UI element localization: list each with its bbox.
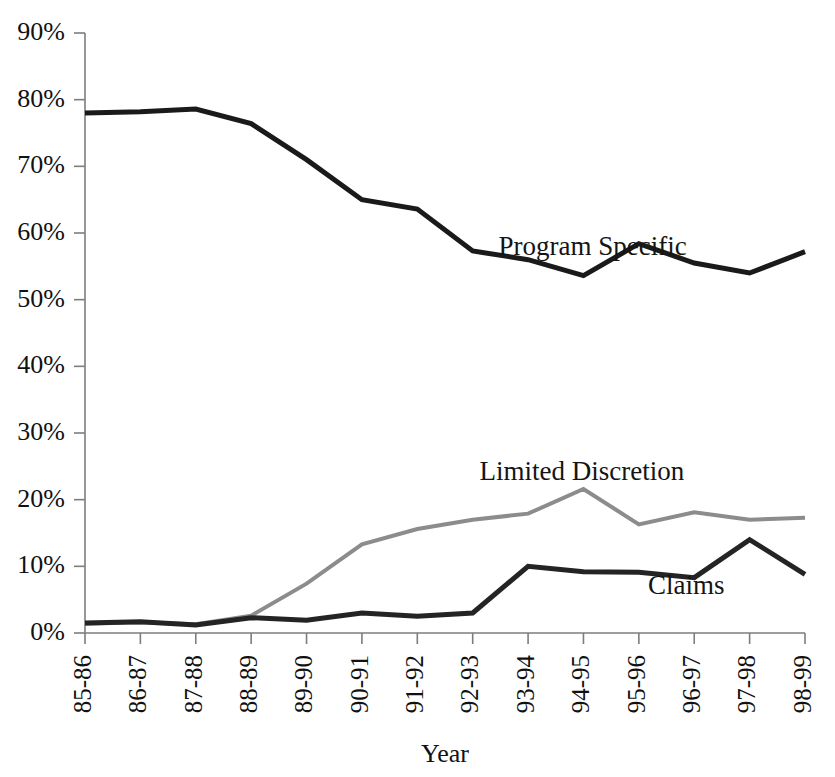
series-line-limited-discretion [85, 489, 805, 624]
x-axis-tick-label: 93-94 [512, 655, 539, 714]
x-axis-tick-label: 85-86 [69, 655, 96, 713]
y-axis-tick-label: 90% [17, 17, 65, 46]
series-label-claims: Claims [648, 570, 725, 600]
y-axis-tick-label: 10% [17, 550, 65, 579]
series-group [85, 109, 805, 625]
x-axis-tick-label: 86-87 [124, 655, 151, 713]
series-label-program-specific: Program Specific [498, 231, 686, 261]
x-axis-tick-label: 90-91 [346, 655, 373, 713]
y-axis-tick-label: 0% [30, 617, 65, 646]
chart-container: 0%10%20%30%40%50%60%70%80%90% 85-8686-87… [0, 0, 835, 777]
y-axis-tick-group: 0%10%20%30%40%50%60%70%80%90% [17, 17, 85, 646]
y-axis-tick-label: 60% [17, 217, 65, 246]
series-label-group: Program SpecificLimited DiscretionClaims [479, 231, 724, 600]
x-axis-tick-label: 88-89 [235, 655, 262, 713]
x-axis-tick-label: 87-88 [180, 655, 207, 713]
y-axis-tick-label: 50% [17, 284, 65, 313]
x-axis-tick-label: 96-97 [678, 655, 705, 713]
x-axis-tick-label: 95-96 [623, 655, 650, 713]
y-axis-tick-label: 80% [17, 84, 65, 113]
x-axis-tick-label: 94-95 [567, 655, 594, 713]
x-axis-tick-label: 97-98 [733, 655, 760, 713]
x-axis-tick-label: 92-93 [456, 655, 483, 713]
y-axis-tick-label: 20% [17, 484, 65, 513]
y-axis-tick-label: 40% [17, 350, 65, 379]
x-axis-tick-label: 91-92 [401, 655, 428, 713]
series-line-program-specific [85, 109, 805, 276]
x-axis-tick-group: 85-8686-8787-8888-8989-9090-9191-9292-93… [69, 633, 816, 713]
x-axis-title: Year [421, 739, 469, 768]
y-axis-tick-label: 30% [17, 417, 65, 446]
x-axis-tick-label: 89-90 [290, 655, 317, 713]
line-chart: 0%10%20%30%40%50%60%70%80%90% 85-8686-87… [0, 0, 835, 777]
series-label-limited-discretion: Limited Discretion [479, 456, 684, 486]
y-axis-tick-label: 70% [17, 150, 65, 179]
x-axis-tick-label: 98-99 [789, 655, 816, 713]
